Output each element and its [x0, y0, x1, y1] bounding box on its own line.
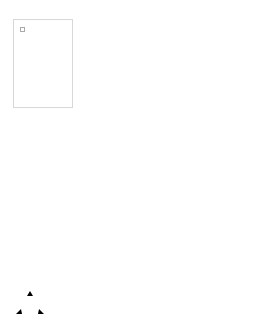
model-viewport[interactable] [0, 0, 280, 323]
axis-triad-icon [10, 288, 50, 318]
legend-title [20, 26, 27, 32]
axis-triad [10, 288, 50, 318]
contour-legend [13, 19, 73, 108]
legend-marker-icon [20, 27, 25, 32]
